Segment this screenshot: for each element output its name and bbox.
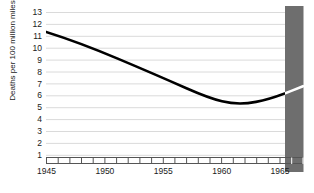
data-line-highlighted [46, 32, 303, 104]
x-tick-label: 1945 [27, 167, 67, 176]
x-tick-label: 1950 [85, 167, 125, 176]
chart-figure: Deaths per 100 million miles driven 13 1… [0, 0, 314, 193]
chart-canvas [0, 0, 314, 193]
data-line [46, 32, 303, 104]
x-tick-label: 1960 [202, 167, 242, 176]
x-tick-label: 1965 [260, 167, 300, 176]
x-tick-label: 1955 [143, 167, 183, 176]
